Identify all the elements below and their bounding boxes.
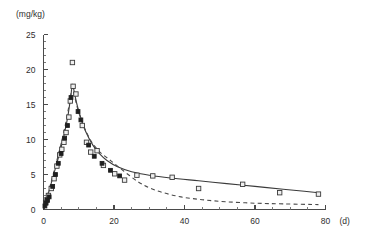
y-tick-label: 20 (26, 65, 36, 75)
y-tick-label: 0 (31, 205, 36, 215)
data-point-open (74, 92, 78, 96)
data-points-group (43, 60, 321, 208)
data-point-filled (79, 118, 83, 122)
data-point-open (67, 115, 71, 119)
data-point-filled (47, 195, 51, 199)
data-point-filled (69, 96, 73, 100)
y-tick-label: 10 (26, 135, 36, 145)
y-axis-unit-label: (mg/kg) (16, 9, 45, 19)
axis-labels-group: 0204060800510152025(mg/kg)(d) (16, 9, 350, 226)
chart-figure: 0204060800510152025(mg/kg)(d) (0, 0, 366, 252)
data-point-open (135, 173, 139, 177)
y-tick-label: 25 (26, 30, 36, 40)
data-point-open (95, 149, 99, 153)
data-point-filled (92, 154, 96, 158)
data-point-open (122, 178, 126, 182)
data-point-open (170, 175, 174, 179)
x-tick-label: 80 (321, 216, 331, 226)
data-point-open (240, 182, 244, 186)
x-tick-label: 60 (250, 216, 260, 226)
chart-plot-area: 0204060800510152025(mg/kg)(d) (0, 0, 366, 252)
data-point-filled (76, 110, 80, 114)
data-point-filled (118, 174, 122, 178)
data-point-filled (66, 124, 70, 128)
data-point-filled (59, 152, 63, 156)
data-point-open (62, 140, 66, 144)
data-point-filled (109, 168, 113, 172)
data-point-open (113, 172, 117, 176)
data-point-filled (100, 161, 104, 165)
data-point-open (60, 147, 64, 151)
data-point-open (52, 177, 56, 181)
y-tick-label: 15 (26, 100, 36, 110)
data-point-open (64, 130, 68, 134)
y-tick-label: 5 (31, 170, 36, 180)
data-point-open (80, 123, 84, 127)
data-point-filled (56, 161, 60, 165)
data-point-open (70, 60, 74, 64)
data-point-filled (54, 173, 58, 177)
data-point-filled (51, 185, 55, 189)
x-tick-label: 40 (180, 216, 190, 226)
data-point-open (89, 150, 93, 154)
data-point-open (71, 84, 75, 88)
axes-group (44, 35, 326, 210)
data-point-open (196, 186, 200, 190)
x-tick-label: 20 (109, 216, 119, 226)
data-point-filled (63, 136, 67, 140)
x-tick-label: 0 (41, 216, 46, 226)
data-point-open (316, 192, 320, 196)
data-point-filled (87, 143, 91, 147)
data-point-open (277, 191, 281, 195)
x-axis-unit-label: (d) (340, 216, 351, 226)
data-point-open (151, 174, 155, 178)
